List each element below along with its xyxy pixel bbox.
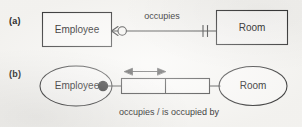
entity-label-room-a: Room <box>216 22 288 33</box>
er-notation-figure: (a) <box>0 0 302 127</box>
relationship-label-a: occupies <box>126 11 198 21</box>
entity-label-employee-a: Employee <box>42 24 112 35</box>
relationship-label-b: occupies / is occupied by <box>81 107 257 117</box>
crows-foot-icon <box>112 27 119 36</box>
zero-circle-icon <box>118 27 126 35</box>
double-headed-arrow-icon <box>125 68 166 75</box>
entity-label-employee-b: Employee <box>42 80 112 91</box>
entity-label-room-b: Room <box>222 80 284 91</box>
panel-b-label: (b) <box>9 69 21 79</box>
